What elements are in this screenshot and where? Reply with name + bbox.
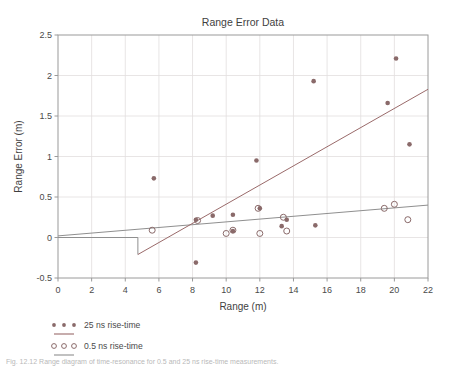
data-point-25ns xyxy=(231,213,236,218)
x-tick-label: 10 xyxy=(221,285,231,295)
data-point-25ns xyxy=(254,158,259,163)
y-tick-label: 2.5 xyxy=(39,30,52,40)
x-tick-label: 12 xyxy=(255,285,265,295)
legend-label: 25 ns rise-time xyxy=(84,320,141,330)
x-tick-label: 8 xyxy=(190,285,195,295)
y-tick-label: 1.5 xyxy=(39,111,52,121)
data-point-25ns xyxy=(279,224,284,229)
x-tick-label: 20 xyxy=(389,285,399,295)
y-tick-label: 1 xyxy=(47,152,52,162)
data-point-25ns xyxy=(152,176,157,181)
y-tick-label: 2 xyxy=(47,71,52,81)
x-tick-label: 14 xyxy=(288,285,298,295)
legend-marker-filled xyxy=(52,323,56,327)
chart-title: Range Error Data xyxy=(202,16,284,28)
x-tick-label: 18 xyxy=(356,285,366,295)
data-point-25ns xyxy=(210,213,215,218)
range-error-chart: 0246810121416182022-0.500.511.522.5Range… xyxy=(0,0,458,374)
y-tick-label: -0.5 xyxy=(36,273,52,283)
y-tick-label: 0.5 xyxy=(39,192,52,202)
data-point-25ns xyxy=(313,223,318,228)
y-tick-label: 0 xyxy=(47,233,52,243)
data-point-25ns xyxy=(407,142,412,147)
y-axis-label: Range Error (m) xyxy=(13,120,24,192)
x-tick-label: 6 xyxy=(156,285,161,295)
data-point-25ns xyxy=(194,260,199,265)
legend-marker-filled xyxy=(62,323,66,327)
x-tick-label: 4 xyxy=(123,285,128,295)
data-point-25ns xyxy=(311,79,316,84)
x-tick-label: 2 xyxy=(89,285,94,295)
figure-caption: Fig. 12.12 Range diagram of time-resonan… xyxy=(6,357,452,366)
x-tick-label: 22 xyxy=(423,285,433,295)
figure-container: 0246810121416182022-0.500.511.522.5Range… xyxy=(0,0,458,374)
data-point-25ns xyxy=(394,56,399,61)
legend-label: 0.5 ns rise-time xyxy=(84,341,143,351)
legend-marker-filled xyxy=(72,323,76,327)
x-axis-label: Range (m) xyxy=(219,301,266,312)
data-point-25ns xyxy=(385,101,390,106)
x-tick-label: 0 xyxy=(55,285,60,295)
legend-marker-open xyxy=(52,344,57,349)
legend-marker-open xyxy=(72,344,77,349)
x-tick-label: 16 xyxy=(322,285,332,295)
legend-marker-open xyxy=(62,344,67,349)
